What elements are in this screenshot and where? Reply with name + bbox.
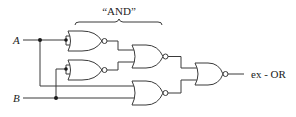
nor-gate-5 <box>195 63 228 85</box>
wire-g1-g3 <box>107 41 135 50</box>
and-brace <box>75 19 162 25</box>
junction-b <box>54 96 58 100</box>
input-b-label: B <box>13 92 20 104</box>
nor-gate-4 <box>132 81 168 105</box>
nor-gate-3 <box>132 45 168 68</box>
and-brace-label: “AND” <box>102 5 136 17</box>
wire-g4-g5 <box>168 80 198 93</box>
nor-gate-2 <box>62 60 107 80</box>
output-label: ex - OR <box>251 68 286 80</box>
nor-gate-1 <box>62 31 107 51</box>
wire-g2-g3 <box>107 62 135 70</box>
logic-circuit-diagram: “AND” A B <box>0 0 296 117</box>
junction-a <box>38 38 42 42</box>
input-a-label: A <box>12 34 20 46</box>
wire-g3-g5 <box>168 57 198 69</box>
